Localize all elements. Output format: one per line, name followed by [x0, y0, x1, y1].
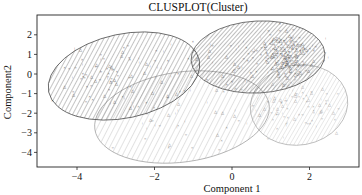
x-tick-label: 2 [307, 171, 312, 182]
x-tick-label: −2 [149, 171, 160, 182]
data-point: × [265, 58, 267, 63]
data-point: × [304, 46, 306, 51]
data-point: × [299, 48, 301, 53]
data-point: × [287, 115, 289, 120]
data-point: × [63, 65, 65, 70]
data-point: × [298, 112, 300, 117]
data-point: × [286, 106, 288, 111]
y-axis: 210−1−2−3−4 [21, 29, 37, 158]
data-point: × [153, 105, 155, 110]
chart-title: CLUSPLOT(Cluster) [148, 1, 247, 14]
data-point: × [290, 80, 292, 85]
data-point: △ [335, 130, 339, 135]
data-point: × [179, 89, 181, 94]
data-point: × [168, 145, 170, 150]
x-axis-label: Component 1 [204, 183, 261, 194]
data-point: × [81, 57, 83, 62]
data-point: × [226, 125, 228, 130]
data-point: × [275, 112, 277, 117]
data-point: × [267, 99, 269, 104]
y-tick-label: −2 [21, 108, 32, 119]
data-point: × [325, 101, 327, 106]
data-point: × [231, 79, 233, 84]
x-tick-label: −4 [72, 171, 83, 182]
data-point: × [285, 86, 287, 91]
y-tick-label: 2 [27, 29, 32, 40]
data-point: × [312, 104, 314, 109]
data-point: × [145, 100, 147, 105]
data-point: × [146, 111, 148, 116]
data-point: + [325, 36, 328, 41]
x-axis: −4−202 [72, 167, 312, 182]
y-tick-label: 0 [27, 69, 32, 80]
data-point: × [247, 58, 249, 63]
data-point: × [276, 126, 278, 131]
y-tick-label: −4 [21, 147, 32, 158]
data-point: × [281, 81, 283, 86]
data-point: × [129, 57, 131, 62]
y-tick-label: −3 [21, 127, 32, 138]
data-point: × [334, 117, 336, 122]
data-point: + [327, 55, 330, 60]
y-axis-label: Component2 [2, 65, 13, 119]
data-point: × [128, 75, 130, 80]
data-point: × [129, 84, 131, 89]
data-point: × [279, 51, 281, 56]
data-point: × [311, 118, 313, 123]
data-point: × [277, 44, 279, 49]
data-point: × [86, 84, 88, 89]
data-point: × [245, 45, 247, 50]
data-point: × [260, 52, 262, 57]
data-point: × [302, 96, 304, 101]
data-point: × [255, 69, 257, 74]
data-point: × [88, 94, 90, 99]
data-point: × [167, 95, 169, 100]
data-point: × [221, 138, 223, 143]
data-point: × [223, 89, 225, 94]
data-point: × [108, 87, 110, 92]
data-point: × [272, 117, 274, 122]
data-point: × [309, 46, 311, 51]
x-tick-label: 0 [230, 171, 235, 182]
data-point: × [192, 39, 194, 44]
data-point: × [177, 71, 179, 76]
data-point: × [206, 77, 208, 82]
data-point: × [285, 74, 287, 79]
data-point: × [137, 104, 139, 109]
data-point: × [92, 97, 94, 102]
data-point: × [30, 63, 32, 68]
data-point: × [279, 21, 281, 26]
data-point: × [51, 98, 53, 103]
data-point: × [226, 82, 228, 87]
data-point: × [183, 88, 185, 93]
data-point: × [272, 51, 274, 56]
clusplot-chart: CLUSPLOT(Cluster) △+×○△+×○△+×○△+×○△+×○△+… [0, 0, 362, 195]
data-point: × [300, 42, 302, 47]
y-tick-label: −1 [21, 88, 32, 99]
data-point: × [302, 90, 304, 95]
data-point: × [167, 58, 169, 63]
data-point: × [187, 56, 189, 61]
y-tick-label: 1 [27, 49, 32, 60]
